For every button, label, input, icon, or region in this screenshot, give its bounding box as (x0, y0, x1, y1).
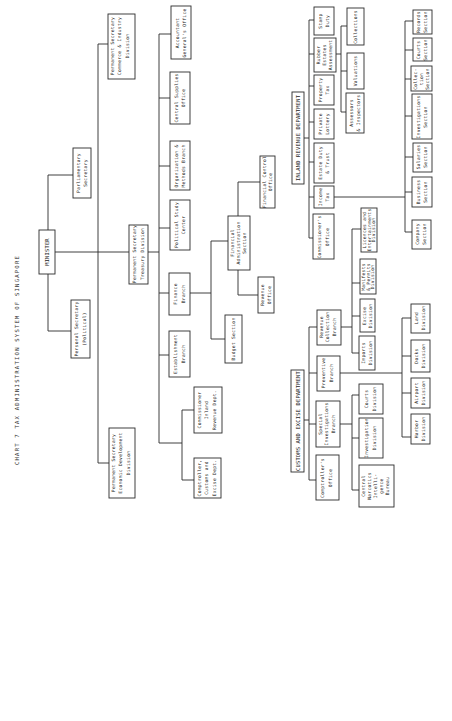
svg-text:Treasury Division: Treasury Division (140, 228, 145, 280)
svg-text:Central Supplies: Central Supplies (174, 73, 179, 122)
svg-text:Permanent Secretary: Permanent Secretary (132, 225, 137, 283)
ird-stamp-duty: Stamp Duty (314, 7, 334, 35)
ird-salaries-section: Salaries Section (413, 143, 432, 172)
svg-text:Division: Division (421, 417, 426, 442)
svg-text:Investigation: Investigation (364, 418, 369, 458)
svg-text:Division: Division (370, 265, 375, 290)
svg-text:Economic Development: Economic Development (118, 432, 123, 493)
ird-assessors: Assessors & Inspectors (346, 93, 364, 133)
svg-text:Section: Section (423, 39, 428, 60)
svg-text:Commissioner's: Commissioner's (317, 216, 322, 259)
svg-text:Assessors: Assessors (349, 99, 354, 127)
svg-text:Budget Section: Budget Section (231, 318, 236, 361)
customs-excise-division: Excise Division (360, 299, 375, 332)
svg-text:Secretary: Secretary (83, 159, 88, 187)
node-finance-branch: Finance Branch (169, 273, 190, 315)
customs-docks-division: Docks Division (411, 340, 430, 372)
ird-investigations-section: Investigations Section (412, 94, 432, 139)
svg-text:& Trust: & Trust (325, 152, 330, 173)
svg-text:(Political): (Political) (82, 312, 87, 346)
ird-valuations: Valuations (347, 53, 364, 89)
svg-text:Branch: Branch (181, 285, 186, 303)
node-financial-control: Financial Control Office (260, 156, 275, 208)
node-accountant-general: Accountant General's Office (171, 6, 191, 59)
svg-text:Preventive: Preventive (321, 358, 326, 389)
svg-text:Lottery: Lottery (325, 113, 330, 134)
ird-rubber-estates: Rubber Estates Assessment (314, 38, 336, 72)
svg-text:Commerce & Industry: Commerce & Industry (117, 17, 122, 75)
customs-central-narcotics: Central Narcotics Intelli- gence Bureau (359, 465, 394, 507)
customs-airport-division: Airport Division (411, 378, 430, 408)
svg-text:MINISTER: MINISTER (44, 238, 50, 266)
svg-text:Office: Office (181, 89, 186, 107)
svg-text:Division: Division (126, 451, 131, 476)
ird-business-section: Business Section (412, 177, 432, 207)
svg-text:Office: Office (267, 286, 272, 304)
ird-private-lottery: Private Lottery (314, 109, 334, 139)
svg-text:Comptroller's: Comptroller's (320, 458, 325, 498)
svg-text:Center: Center (181, 216, 186, 234)
svg-text:& Inspectors: & Inspectors (356, 95, 361, 132)
svg-text:Branch: Branch (332, 318, 337, 336)
svg-text:Salaries: Salaries (416, 145, 421, 170)
chart-title: CHART 7 TAX ADMINISTRATION SYSTEM OF SIN… (14, 255, 20, 465)
customs-manifests-division: Manifests & Permits Division (360, 259, 376, 294)
svg-text:Assessment: Assessment (328, 40, 333, 71)
ird-income-tax: Income Tax (314, 186, 334, 208)
svg-text:Estate Duty: Estate Duty (318, 146, 323, 180)
node-ps-commerce: Permanent Secretary Commerce & Industry … (108, 14, 135, 79)
customs-investigation-division: Investigation Division (359, 418, 383, 458)
svg-text:Land: Land (414, 312, 419, 324)
svg-text:Special: Special (318, 413, 323, 434)
svg-text:Company: Company (415, 223, 420, 244)
svg-text:INLAND REVENUE DEPARTMENT: INLAND REVENUE DEPARTMENT (295, 94, 301, 181)
customs-land-division: Land Division (411, 304, 430, 333)
node-ps-economic: Permanent Secretary Economic Development… (109, 428, 135, 498)
svg-text:Methods Branch: Methods Branch (181, 145, 186, 188)
svg-text:Permanent Secretary: Permanent Secretary (110, 17, 115, 75)
svg-text:Organization &: Organization & (174, 145, 179, 188)
svg-text:Valuations: Valuations (353, 56, 358, 87)
svg-text:Courts: Courts (416, 41, 421, 59)
svg-text:Division: Division (421, 381, 426, 406)
svg-text:Records: Records (416, 11, 421, 32)
svg-text:Courts: Courts (364, 390, 369, 408)
svg-text:Section: Section (242, 232, 247, 253)
svg-text:Comptroller,: Comptroller, (197, 460, 202, 497)
svg-text:Financial: Financial (230, 229, 235, 257)
node-ps-treasury: Permanent Secretary Treasury Division (129, 225, 148, 284)
ird-records-section: Records Section (413, 10, 432, 34)
svg-text:Administration: Administration (236, 222, 241, 265)
customs-courts-division: Courts Division (359, 384, 383, 414)
svg-text:Income: Income (318, 188, 323, 206)
customs-comptrollers-office: Comptroller's Office (316, 455, 339, 500)
customs-harbor-division: Harbor Division (411, 414, 430, 444)
svg-text:Branch: Branch (329, 364, 334, 382)
svg-text:Division: Division (421, 344, 426, 369)
svg-text:Commissioner: Commissioner (197, 392, 202, 429)
svg-text:Property: Property (318, 78, 323, 103)
node-political-study: Political Study Center (170, 200, 190, 250)
ird-property-tax: Property Tax (314, 75, 334, 105)
node-establishment-branch: Establishment Branch (169, 331, 190, 377)
svg-text:CUSTOMS AND EXCISE DEPARTMENT: CUSTOMS AND EXCISE DEPARTMENT (295, 370, 301, 470)
node-comptroller-customs: Comptroller, Customs and Excise Dept. (194, 458, 221, 498)
svg-text:Investigations: Investigations (324, 403, 329, 446)
customs-imports-division: Imports Division (359, 336, 375, 370)
svg-text:Division: Division (372, 426, 377, 451)
ird-courts-section: Courts Section (413, 38, 432, 61)
svg-text:Collections: Collections (353, 10, 358, 44)
svg-text:Revenue Dept.: Revenue Dept. (212, 390, 217, 430)
node-parliamentary-secretary: Parliamentary Secretary (73, 148, 91, 198)
svg-text:General's Office: General's Office (182, 8, 187, 57)
node-commissioner-inland: Commissioner Inland Revenue Dept. (194, 387, 222, 433)
customs-licences-division: Licences and Entertainments Division (361, 208, 377, 252)
node-minister: MINISTER (39, 230, 55, 274)
svg-text:Intelli-: Intelli- (373, 474, 378, 499)
ird-company-section: Company Section (412, 220, 431, 249)
svg-text:Business: Business (416, 180, 421, 205)
svg-text:Accountant: Accountant (175, 18, 180, 49)
node-financial-admin: Financial Administration Section (228, 216, 250, 270)
svg-text:Division: Division (421, 306, 426, 331)
svg-text:Section: Section (423, 146, 428, 167)
